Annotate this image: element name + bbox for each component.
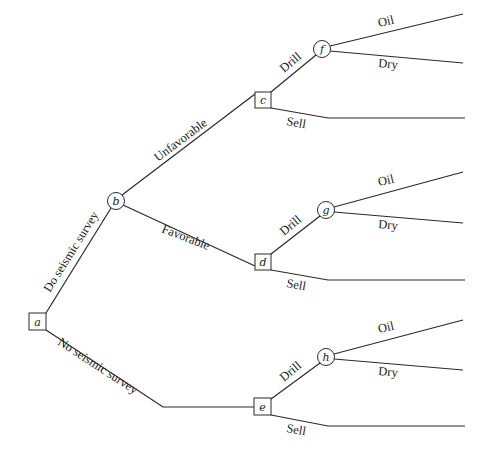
label-f-dry: Dry [378, 56, 399, 72]
edge-h-dry [334, 359, 463, 370]
label-do-survey: Do seismic survey [41, 208, 102, 294]
node-a: a [29, 313, 46, 330]
label-e-sell: Sell [285, 421, 307, 438]
label-c-sell: Sell [285, 114, 307, 131]
label-no-survey: No seismic survey [55, 335, 141, 397]
node-label-g: g [322, 204, 329, 217]
node-label-b: b [112, 195, 119, 208]
label-f-oil: Oil [377, 13, 396, 30]
label-d-sell: Sell [285, 276, 307, 293]
edge-a-e [46, 330, 254, 407]
node-b: b [108, 193, 125, 210]
node-f: f [314, 41, 331, 58]
node-label-e: e [259, 401, 266, 414]
label-g-dry: Dry [378, 217, 399, 233]
label-d-drill: Drill [277, 212, 304, 238]
edge-g-oil [334, 172, 463, 207]
node-label-a: a [34, 316, 41, 329]
node-label-c: c [260, 94, 266, 107]
label-g-oil: Oil [377, 172, 396, 189]
node-label-h: h [322, 351, 329, 364]
label-unfavorable: Unfavorable [151, 115, 210, 164]
label-h-oil: Oil [377, 319, 396, 336]
node-h: h [318, 349, 335, 366]
label-favorable: Favorable [160, 222, 212, 253]
label-e-drill: Drill [277, 358, 304, 384]
node-e: e [254, 398, 271, 415]
node-g: g [318, 202, 335, 219]
edge-labels: Do seismic survey No seismic survey Unfa… [41, 13, 399, 439]
decision-tree-diagram: a b c d e f g h Do seismic survey No sei… [0, 0, 489, 454]
node-c: c [255, 92, 271, 108]
label-c-drill: Drill [277, 49, 304, 75]
edge-h-oil [334, 320, 463, 354]
edge-f-oil [330, 14, 463, 46]
label-h-dry: Dry [378, 364, 399, 380]
edge-a-b [46, 208, 111, 313]
node-label-d: d [259, 256, 266, 269]
node-d: d [255, 254, 271, 270]
edge-b-c [122, 94, 255, 195]
edge-g-dry [334, 212, 463, 223]
